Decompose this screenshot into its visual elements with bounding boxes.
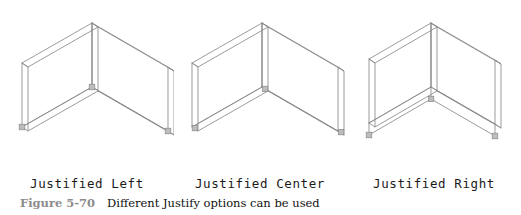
figure-container: Justified Left Justified Center Justifie…: [0, 0, 521, 215]
left-wall-inner-bottom-edge: [28, 91, 98, 131]
right-wall-end-thickness: [495, 60, 501, 128]
option-label-row: Justified Left Justified Center Justifie…: [0, 176, 521, 195]
left-wall-end-thickness: [22, 63, 28, 131]
right-wall-inner-bottom-edge: [268, 91, 344, 135]
left-wall-outer-face: [192, 23, 262, 127]
right-wall-outer-bottom-edge: [92, 87, 168, 131]
grip-marker-right-end[interactable]: [338, 129, 343, 134]
figure-caption: Figure 5-70 Different Justify options ca…: [0, 196, 521, 215]
left-wall-outer-bottom-edge: [192, 87, 262, 127]
figure-caption-text: Different Justify options can be used: [107, 196, 320, 210]
option-label-justified-center: Justified Center: [173, 176, 347, 191]
left-wall-top-thickness: [22, 23, 98, 67]
left-wall-inner-bottom-edge: [375, 91, 437, 127]
left-wall-outer-bottom-edge: [369, 87, 431, 123]
right-wall-inner-bottom-edge: [98, 91, 174, 135]
left-wall-outer-face: [369, 23, 431, 123]
grip-marker-corner[interactable]: [428, 96, 433, 101]
right-wall-top-thickness: [92, 23, 174, 71]
grip-marker-left-end[interactable]: [19, 124, 25, 130]
right-wall-inner-bottom-edge: [437, 91, 501, 128]
left-wall-outer-bottom-edge: [22, 87, 92, 127]
right-wall-outer-face: [92, 23, 168, 131]
grip-marker-left-end[interactable]: [192, 125, 197, 130]
grip-marker-corner[interactable]: [89, 84, 95, 90]
grip-marker-right-end[interactable]: [492, 133, 498, 139]
right-wall-outer-bottom-edge: [431, 87, 495, 124]
wall-corner-wireframe-right: [347, 0, 521, 175]
right-wall-top-thickness: [262, 23, 344, 71]
drawing-justified-left: [0, 0, 174, 175]
drawing-justified-center: [173, 0, 347, 175]
right-wall-outer-face: [262, 23, 338, 131]
left-wall-top-thickness: [192, 23, 268, 67]
right-wall-end-thickness: [338, 67, 344, 135]
left-wall-outer-face: [22, 23, 92, 127]
drawing-justified-right: [347, 0, 521, 175]
left-wall-inner-bottom-edge: [198, 91, 268, 131]
option-label-justified-right: Justified Right: [347, 176, 521, 191]
base-path-offset-trace: [369, 99, 495, 136]
left-wall-top-thickness: [369, 23, 437, 63]
figure-caption-number: Figure 5-70: [20, 196, 95, 210]
wall-corner-wireframe-left: [0, 0, 174, 175]
right-wall-outer-bottom-edge: [262, 87, 338, 131]
grip-marker-left-end[interactable]: [366, 132, 372, 138]
wall-corner-wireframe-center: [173, 0, 347, 175]
left-wall-end-thickness: [192, 63, 198, 131]
option-label-justified-left: Justified Left: [0, 176, 174, 191]
right-wall-outer-face: [431, 23, 495, 124]
grip-marker-corner[interactable]: [262, 86, 267, 91]
grip-marker-right-end[interactable]: [165, 128, 171, 134]
right-wall-top-thickness: [431, 23, 501, 64]
left-wall-end-thickness: [369, 59, 375, 127]
